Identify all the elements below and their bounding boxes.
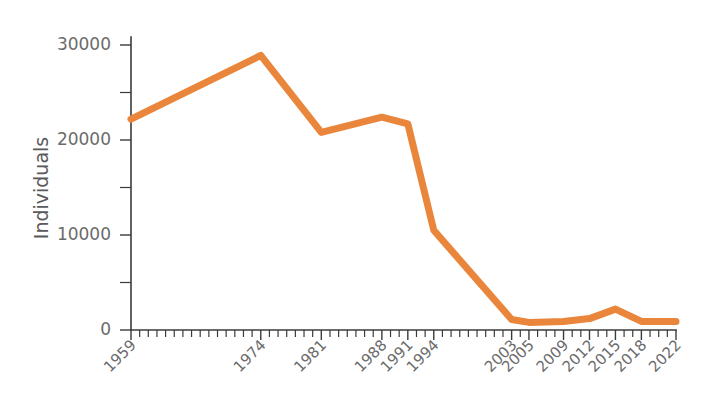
x-tick-label: 1981 (290, 336, 330, 376)
line-chart: 0100002000030000 19591974198119881991199… (0, 0, 711, 398)
x-tick-label: 1974 (230, 336, 270, 376)
y-axis-title: Individuals (30, 137, 52, 239)
series-line-individuals (131, 55, 676, 322)
y-axis-tick-labels: 0100002000030000 (57, 34, 111, 339)
y-tick-label: 20000 (57, 129, 111, 149)
data-series-group (131, 55, 676, 322)
y-tick-label: 10000 (57, 224, 111, 244)
chart-canvas: 0100002000030000 19591974198119881991199… (0, 0, 711, 398)
x-axis-tick-labels: 1959197419811988199119942003200520092012… (100, 336, 685, 376)
y-tick-label: 30000 (57, 34, 111, 54)
x-tick-label: 2022 (645, 336, 685, 376)
y-axis-title-group: Individuals (30, 137, 52, 239)
y-tick-label: 0 (100, 319, 111, 339)
x-tick-label: 1959 (100, 336, 140, 376)
y-axis-ticks (120, 45, 131, 330)
